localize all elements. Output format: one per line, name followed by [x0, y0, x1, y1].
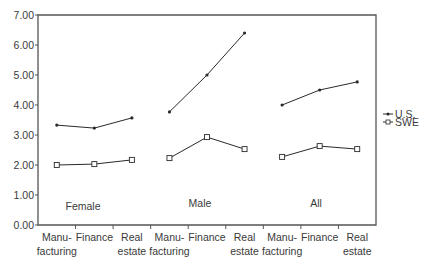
series-swe-marker [317, 144, 322, 149]
series-us-marker [318, 88, 321, 91]
y-axis: 0.001.002.003.004.005.006.007.00 [14, 9, 38, 231]
series-us-line [282, 82, 357, 105]
legend: U.S.SWE [383, 108, 419, 128]
y-tick-label: 6.00 [14, 39, 35, 51]
series-us-marker [93, 127, 96, 130]
y-tick-label: 4.00 [14, 99, 35, 111]
y-tick-label: 1.00 [14, 189, 35, 201]
series-us-marker [130, 116, 133, 119]
series-us-marker [356, 80, 359, 83]
legend-item-swe: SWE [383, 116, 419, 128]
x-category-label: Finance [188, 231, 226, 243]
x-category-label: Realestate [230, 231, 259, 257]
y-tick-label: 5.00 [14, 69, 35, 81]
y-tick-label: 3.00 [14, 129, 35, 141]
x-axis: Manu-facturingFinanceRealestateManu-fact… [37, 225, 372, 257]
series-swe-marker [129, 157, 134, 162]
y-tick-label: 0.00 [14, 219, 35, 231]
series-us-marker [281, 103, 284, 106]
y-tick-label: 2.00 [14, 159, 35, 171]
x-category-label: Realestate [118, 231, 147, 257]
group-labels: FemaleMaleAll [65, 197, 321, 212]
y-tick-label: 7.00 [14, 9, 35, 21]
series-lines [54, 31, 359, 167]
x-category-label: Realestate [343, 231, 372, 257]
x-category-label: Manu-facturing [37, 231, 77, 257]
series-swe-line [169, 137, 244, 158]
group-label-female: Female [65, 200, 100, 212]
series-us-marker [168, 110, 171, 113]
group-label-all: All [310, 197, 322, 209]
series-swe-marker [54, 163, 59, 168]
series-us-line [169, 33, 244, 112]
x-category-label: Manu-facturing [149, 231, 189, 257]
series-swe-marker [242, 147, 247, 152]
series-swe-marker [167, 156, 172, 161]
series-swe-marker [355, 147, 360, 152]
series-us-marker [243, 31, 246, 34]
series-us-marker [205, 73, 208, 76]
legend-square-icon [386, 120, 390, 124]
series-us-marker [55, 124, 58, 127]
legend-label: SWE [395, 116, 419, 128]
series-swe-marker [205, 135, 210, 140]
plot-frame [38, 15, 376, 225]
plot-border [38, 15, 376, 225]
x-category-label: Manu-facturing [262, 231, 302, 257]
series-swe-marker [280, 154, 285, 159]
group-label-male: Male [189, 197, 212, 209]
x-category-label: Finance [301, 231, 339, 243]
x-category-label: Finance [76, 231, 114, 243]
series-swe-marker [92, 162, 97, 167]
legend-dot-icon [387, 113, 390, 116]
line-chart: 0.001.002.003.004.005.006.007.00 Manu-fa… [0, 0, 433, 267]
